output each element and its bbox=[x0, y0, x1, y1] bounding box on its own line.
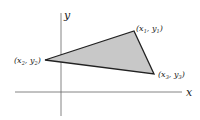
vertex-label-p1: (x1, y1) bbox=[136, 24, 163, 34]
y-axis-label: y bbox=[63, 9, 71, 22]
triangle-diagram: x y (x1, y1) (x2, y2) (x3, y3) bbox=[0, 0, 200, 120]
vertex-label-p3: (x3, y3) bbox=[158, 70, 185, 80]
vertex-label-p2: (x2, y2) bbox=[14, 56, 41, 66]
x-axis-label: x bbox=[186, 86, 193, 99]
